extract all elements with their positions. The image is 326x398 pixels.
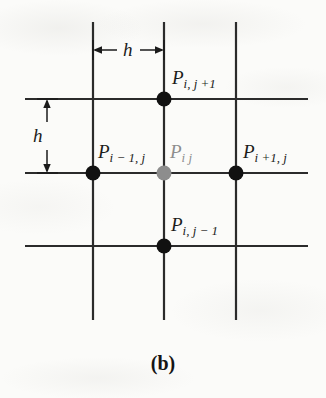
node-dot-p-i-j (157, 166, 172, 181)
node-dot-p-i-j-minus-1 (157, 239, 172, 254)
node-subscript-p-i-j: i j (182, 150, 192, 165)
node-dot-p-i-j-plus-1 (157, 92, 172, 107)
node-base-p-i-plus-1-j: P (243, 141, 255, 162)
node-base-p-i-j-minus-1: P (171, 214, 183, 235)
vertical-spacing-arrowhead-bottom (43, 164, 50, 173)
grid-stencil-figure: h h Pi, j +1 Pi − 1, j Pi j Pi +1, j Pi,… (0, 0, 326, 398)
node-subscript-p-i-minus-1-j: i − 1, j (110, 150, 146, 165)
vertical-spacing-arrowhead-top (43, 99, 50, 108)
grid-diagram (0, 0, 326, 398)
node-subscript-p-i-j-plus-1: i, j +1 (184, 76, 216, 91)
node-label-p-i-plus-1-j: Pi +1, j (243, 142, 287, 164)
node-dot-p-i-plus-1-j (229, 166, 244, 181)
node-subscript-p-i-plus-1-j: i +1, j (255, 150, 287, 165)
node-base-p-i-j-plus-1: P (172, 67, 184, 88)
horizontal-spacing-label: h (123, 40, 133, 59)
node-label-p-i-minus-1-j: Pi − 1, j (98, 142, 145, 164)
node-label-p-i-j: Pi j (170, 142, 192, 164)
horizontal-spacing-arrowhead-right (155, 46, 164, 53)
node-label-p-i-j-minus-1: Pi, j − 1 (171, 215, 218, 237)
node-label-p-i-j-plus-1: Pi, j +1 (172, 68, 216, 90)
figure-caption: (b) (0, 352, 326, 375)
horizontal-spacing-arrowhead-left (93, 46, 102, 53)
node-base-p-i-minus-1-j: P (98, 141, 110, 162)
node-subscript-p-i-j-minus-1: i, j − 1 (183, 223, 219, 238)
node-dot-p-i-minus-1-j (86, 166, 101, 181)
node-base-p-i-j: P (170, 141, 182, 162)
vertical-spacing-label: h (33, 126, 43, 145)
